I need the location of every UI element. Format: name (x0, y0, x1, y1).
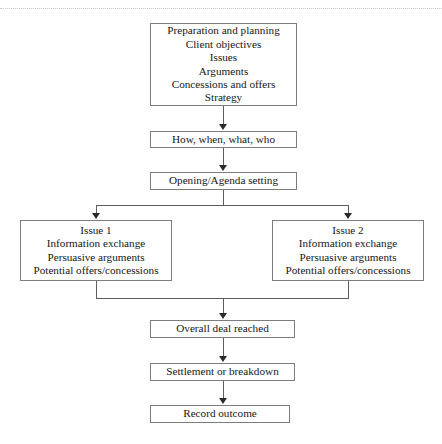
node-line: Issues (210, 51, 237, 64)
node-settlement-or-breakdown: Settlement or breakdown (150, 363, 295, 381)
connector-opening-split-bar (96, 205, 349, 206)
node-line: Concessions and offers (172, 78, 276, 91)
connector-issue2-merge-riser (348, 281, 349, 298)
node-line: Persuasive arguments (299, 251, 396, 264)
node-line: Persuasive arguments (47, 251, 144, 264)
node-line: Issue 1 (80, 224, 111, 237)
node-opening-agenda-setting: Opening/Agenda setting (150, 172, 297, 190)
node-line: Potential offers/concessions (285, 264, 410, 277)
node-issue-1: Issue 1 Information exchange Persuasive … (20, 220, 172, 281)
node-line: Potential offers/concessions (33, 264, 158, 277)
node-preparation-and-planning: Preparation and planning Client objectiv… (150, 23, 297, 106)
node-line: Strategy (205, 91, 242, 104)
arrowhead-down-icon (219, 398, 227, 404)
node-issue-2: Issue 2 Information exchange Persuasive … (272, 220, 424, 281)
arrowhead-down-icon (219, 313, 227, 319)
node-line: Issue 2 (332, 224, 363, 237)
node-how-when-what-who: How, when, what, who (150, 131, 297, 148)
page-scan-rule (0, 8, 442, 9)
node-line: Overall deal reached (176, 322, 269, 335)
node-line: How, when, what, who (172, 133, 275, 146)
node-record-outcome: Record outcome (150, 405, 290, 423)
node-overall-deal-reached: Overall deal reached (150, 320, 295, 338)
node-line: Client objectives (186, 38, 262, 51)
node-line: Preparation and planning (167, 24, 279, 37)
flowchart-canvas: Preparation and planning Client objectiv… (0, 0, 442, 444)
node-line: Information exchange (47, 237, 145, 250)
arrowhead-down-icon (219, 165, 227, 171)
connector-issue1-merge-riser (96, 281, 97, 298)
node-line: Settlement or breakdown (166, 365, 278, 378)
node-line: Information exchange (299, 237, 397, 250)
arrowhead-down-icon (344, 213, 352, 219)
node-line: Arguments (199, 65, 249, 78)
arrowhead-down-icon (219, 124, 227, 130)
connector-opening-split-stem (223, 190, 224, 206)
node-line: Record outcome (183, 407, 257, 420)
arrowhead-down-icon (219, 356, 227, 362)
node-line: Opening/Agenda setting (169, 174, 278, 187)
arrowhead-down-icon (92, 213, 100, 219)
